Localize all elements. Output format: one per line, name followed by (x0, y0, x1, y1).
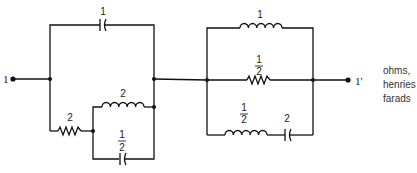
input-terminal-label: 1 (3, 73, 9, 85)
capacitor-value-label: 2 (284, 113, 290, 124)
inductor-value-num: 1 (241, 102, 247, 113)
resistor-value-label: 2 (67, 112, 73, 123)
resistor-value-den: 2 (256, 66, 262, 77)
inductor-value-label: 1 (257, 9, 263, 20)
capacitor-value-label: 1 (100, 6, 106, 17)
left-network: 1 2 2 1 2 (50, 6, 156, 165)
capacitor-value-num: 1 (119, 129, 125, 140)
right-network: 1 1 2 1 2 2 (207, 9, 313, 141)
resistor-series (58, 127, 81, 135)
units-note-line-2: henries (383, 79, 416, 90)
wire (105, 25, 154, 107)
circuit-diagram: 1 1 2 2 1 2 (0, 0, 417, 173)
inductor-top-right (240, 24, 282, 29)
output-terminal (345, 77, 350, 82)
resistor-middle (247, 76, 270, 84)
inductor-bottom-right (225, 131, 267, 136)
resistor-value-num: 1 (256, 54, 262, 65)
inductor-inner (102, 103, 144, 108)
units-note-line-3: farads (383, 93, 411, 104)
connecting-wire (154, 79, 207, 80)
inductor-value-den: 2 (241, 114, 247, 125)
capacitor-value-den: 2 (119, 142, 125, 153)
output-terminal-label: 1' (355, 75, 363, 87)
inductor-value-label: 2 (120, 88, 126, 99)
units-note-line-1: ohms, (383, 65, 410, 76)
